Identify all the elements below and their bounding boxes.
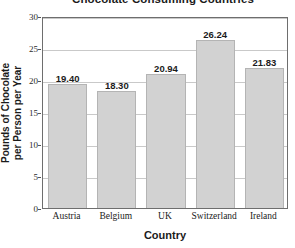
- y-axis-tick-mark: [38, 177, 41, 178]
- y-axis-tick-label: 10: [22, 141, 38, 150]
- bar-switzerland[interactable]: [196, 40, 235, 208]
- x-axis-category-label: Ireland: [233, 211, 294, 221]
- y-axis-title: Pounds of Chocolate per Person per Year: [0, 17, 22, 209]
- gridline: [43, 18, 287, 19]
- bar-chart-figure: Chocolate Consuming Countries Pounds of …: [0, 0, 295, 248]
- y-axis-tick-label: 25: [22, 45, 38, 54]
- bar-austria[interactable]: [48, 84, 87, 208]
- chart-title: Chocolate Consuming Countries: [38, 0, 288, 5]
- y-axis-tick-mark: [38, 49, 41, 50]
- plot-area: 19.4018.3020.9426.2421.83: [42, 17, 288, 209]
- y-axis-tick-label: 20: [22, 77, 38, 86]
- bar-belgium[interactable]: [97, 91, 136, 208]
- y-axis-tick-label: 15: [22, 109, 38, 118]
- y-axis-tick-mark: [38, 145, 41, 146]
- bar-value-label: 20.94: [146, 63, 185, 74]
- x-axis-title: Country: [42, 229, 288, 241]
- bar-value-label: 26.24: [196, 29, 235, 40]
- bar-ireland[interactable]: [245, 68, 284, 208]
- bar-value-label: 18.30: [97, 80, 136, 91]
- y-axis-tick-mark: [38, 81, 41, 82]
- gridline: [43, 50, 287, 51]
- bar-value-label: 21.83: [245, 57, 284, 68]
- y-axis-tick-label: 30: [22, 13, 38, 22]
- y-axis-tick-mark: [38, 17, 41, 18]
- y-axis-tick-mark: [38, 113, 41, 114]
- y-axis-tick-mark: [38, 209, 41, 210]
- bar-uk[interactable]: [146, 74, 185, 208]
- y-axis-tick-label: 5: [22, 173, 38, 182]
- y-axis-title-line-1: Pounds of Chocolate: [0, 63, 11, 163]
- bar-value-label: 19.40: [48, 73, 87, 84]
- x-axis-category-labels: AustriaBelgiumUKSwitzerlandIreland: [42, 211, 288, 227]
- y-axis-title-line-2: per Person per Year: [11, 63, 23, 163]
